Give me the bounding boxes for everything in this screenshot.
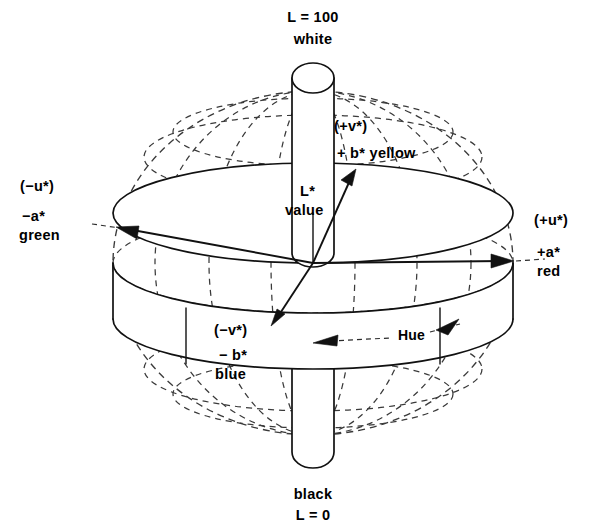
left-label-line1: (−u*) — [20, 178, 54, 194]
center-axis-label-line1: L* — [300, 183, 315, 199]
lower-left-label-line1: (−v*) — [214, 322, 247, 338]
upper-right-label-line2: + b* yellow — [337, 145, 416, 161]
upper-right-label-line1: (+v*) — [334, 118, 367, 134]
green-axis-tail — [92, 224, 120, 228]
disc-side-wall-fill — [113, 263, 513, 369]
lower-left-label-line3: blue — [215, 366, 246, 382]
lower-left-label-line2: − b* — [219, 347, 247, 363]
left-label-line3: green — [19, 227, 60, 243]
center-axis-label-line2: value — [285, 202, 324, 218]
bottom-label-line1: black — [294, 486, 333, 502]
hue-label: Hue — [398, 327, 425, 343]
right-label-line3: red — [537, 263, 560, 279]
color-solid-svg: L = 100 white black L = 0 (−u*) −a* gree… — [0, 0, 604, 528]
top-label-line2: white — [293, 31, 333, 47]
color-solid-diagram: L = 100 white black L = 0 (−u*) −a* gree… — [0, 0, 604, 528]
left-label-line2: −a* — [22, 208, 45, 224]
green-axis-arrowhead — [116, 226, 139, 239]
blue-axis-line — [277, 263, 313, 318]
bottom-label-line2: L = 0 — [296, 507, 331, 523]
right-label-line2: +a* — [537, 244, 560, 260]
right-label-line1: (+u*) — [534, 212, 568, 228]
top-label-line1: L = 100 — [287, 9, 338, 25]
